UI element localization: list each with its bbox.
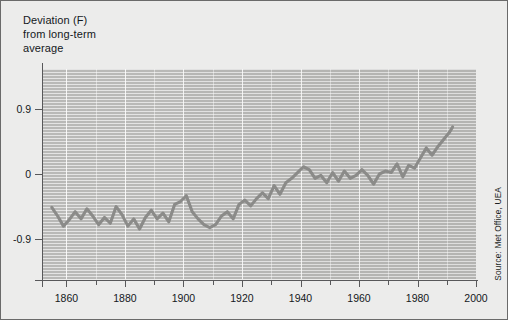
x-minor-tick-mark — [388, 280, 389, 285]
x-minor-tick-mark — [271, 280, 272, 285]
x-tick-label: 1900 — [172, 292, 195, 304]
x-minor-tick-mark — [447, 280, 448, 285]
source-credit: Source: Met Office, UEA — [494, 187, 503, 281]
x-tick-mark — [66, 280, 67, 287]
x-tick-mark — [183, 280, 184, 287]
y-tick-mark — [35, 109, 43, 110]
y-tick-label: 0.9 — [1, 103, 31, 115]
y-tick-label: 0 — [1, 168, 31, 180]
x-tick-label: 1960 — [347, 292, 370, 304]
x-tick-label: 1920 — [230, 292, 253, 304]
chart-figure: Deviation (F) from long-term average 0.9… — [0, 0, 508, 320]
x-tick-mark — [242, 280, 243, 287]
y-axis-line — [42, 63, 43, 287]
x-minor-tick-mark — [213, 280, 214, 285]
x-minor-tick-mark — [154, 280, 155, 285]
chart-title: Deviation (F) from long-term average — [23, 13, 96, 55]
x-tick-mark — [418, 280, 419, 287]
series-line-layer — [43, 69, 476, 279]
x-tick-label: 1860 — [55, 292, 78, 304]
x-tick-label: 1980 — [406, 292, 429, 304]
y-tick-mark — [35, 174, 43, 175]
plot-area — [43, 69, 476, 279]
x-tick-mark — [125, 280, 126, 287]
x-minor-tick-mark — [330, 280, 331, 285]
x-tick-label: 2000 — [464, 292, 487, 304]
x-axis-line — [35, 280, 478, 281]
x-tick-mark — [359, 280, 360, 287]
x-tick-label: 1940 — [289, 292, 312, 304]
x-minor-tick-mark — [96, 280, 97, 285]
y-tick-mark — [35, 239, 43, 240]
x-tick-mark — [476, 280, 477, 287]
global-temperature-deviation-line — [43, 69, 476, 279]
x-tick-label: 1880 — [113, 292, 136, 304]
x-tick-mark — [301, 280, 302, 287]
y-tick-label: -0.9 — [1, 233, 31, 245]
